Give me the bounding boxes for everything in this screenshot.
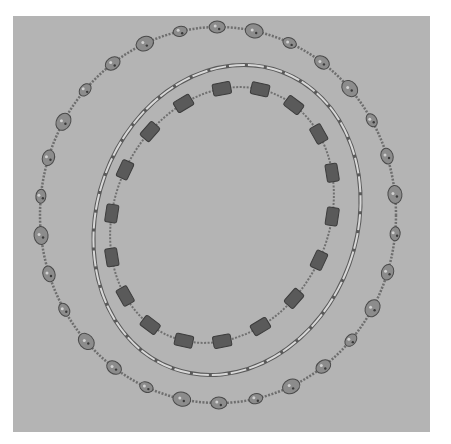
stone-bead <box>244 22 264 39</box>
stone-bead <box>313 357 333 376</box>
necklace-inner <box>61 42 382 387</box>
stone-bead <box>211 397 227 409</box>
stone-bead <box>389 226 400 241</box>
stone-bead <box>35 189 46 204</box>
stone-bead <box>379 263 395 282</box>
stone-bead <box>40 148 56 167</box>
stone-bead <box>281 36 298 51</box>
rect-bead <box>174 333 194 349</box>
rect-bead <box>250 317 272 337</box>
stone-bead <box>280 376 302 396</box>
necklaces-illustration <box>0 0 451 444</box>
stone-bead <box>104 358 124 377</box>
rect-bead <box>116 285 135 307</box>
stone-bead <box>379 147 395 166</box>
rect-bead <box>173 94 195 114</box>
stone-bead <box>53 110 74 133</box>
stone-bead <box>172 25 188 38</box>
stone-bead <box>387 185 403 204</box>
rect-bead <box>212 334 232 349</box>
stone-bead <box>134 34 156 54</box>
rect-bead <box>310 250 328 271</box>
stone-bead <box>138 380 155 395</box>
stone-bead <box>248 392 264 405</box>
rect-bead <box>104 247 119 267</box>
rect-bead <box>105 204 120 224</box>
rect-bead <box>325 207 340 227</box>
stone-bead <box>172 390 192 407</box>
necklace-outer <box>33 21 403 409</box>
stone-bead <box>362 297 383 320</box>
stone-bead <box>209 21 225 33</box>
stone-bead <box>41 264 57 283</box>
stone-bead <box>364 112 380 129</box>
stone-bead <box>56 301 72 318</box>
rect-bead <box>250 81 270 97</box>
rect-bead <box>116 159 134 180</box>
rect-bead <box>212 81 232 96</box>
stone-bead <box>33 226 49 245</box>
rect-bead <box>325 163 340 183</box>
rect-bead <box>309 123 328 145</box>
